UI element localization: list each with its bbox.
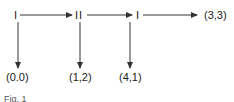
game-tree-diagram: I II I (3,3) (0.0) (1,2) (4,1) Fig. 1 — [0, 0, 234, 102]
node-player-3: I — [136, 9, 140, 21]
node-player-1: I — [14, 9, 18, 21]
payoff-down-1: (0.0) — [6, 71, 29, 83]
node-player-2: II — [75, 9, 83, 21]
figure-caption: Fig. 1 — [4, 94, 27, 102]
payoff-terminal: (3,3) — [204, 9, 227, 21]
payoff-down-3: (4,1) — [119, 71, 142, 83]
tree-edges — [0, 0, 234, 102]
payoff-down-2: (1,2) — [69, 71, 92, 83]
